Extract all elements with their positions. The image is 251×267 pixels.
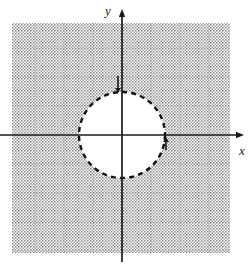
y-axis-label: y	[103, 3, 111, 18]
x-axis-label: x	[238, 143, 245, 158]
math-region-figure: y x	[0, 0, 251, 267]
figure-canvas: y x	[0, 0, 251, 267]
